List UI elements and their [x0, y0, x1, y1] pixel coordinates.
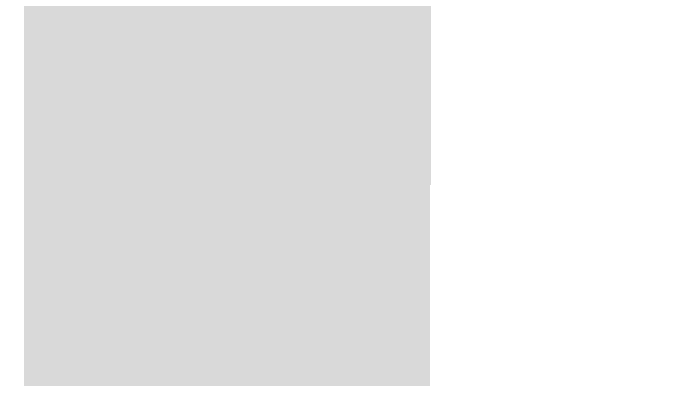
figure-illustration: [0, 0, 698, 403]
